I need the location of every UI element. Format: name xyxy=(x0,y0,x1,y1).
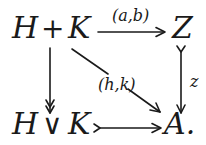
arrow-top: (a,b) xyxy=(98,6,165,37)
arrow-tail-icon xyxy=(177,46,185,52)
arrow-bottom xyxy=(94,124,161,133)
node-top-right: Z xyxy=(171,10,194,45)
arrow-tail-icon xyxy=(94,124,100,132)
node-bottom-left-op: ∨ xyxy=(42,108,63,141)
node-top-left-op: + xyxy=(41,12,64,45)
node-bottom-right: A. xyxy=(161,106,195,141)
node-top-left: H + K xyxy=(11,10,92,45)
node-top-left-right: K xyxy=(67,10,92,45)
node-top-left-left: H xyxy=(11,10,39,45)
arrow-diagonal: (h,k) xyxy=(72,49,160,112)
arrow-left xyxy=(46,48,54,113)
node-bottom-left-left: H xyxy=(11,106,39,141)
arrow-diagonal-label: (h,k) xyxy=(98,75,136,94)
arrow-right: z xyxy=(177,46,199,113)
arrow-top-label: (a,b) xyxy=(112,6,149,25)
arrow-right-label: z xyxy=(189,72,199,91)
node-bottom-left-right: K xyxy=(67,106,92,141)
commutative-diagram: H + K Z H ∨ K A. (a,b) z (h,k) xyxy=(0,0,206,145)
